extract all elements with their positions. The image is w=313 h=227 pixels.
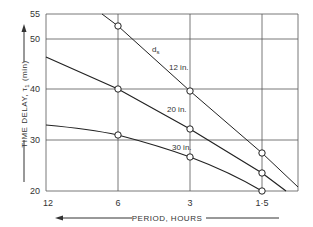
svg-text:TIME DELAY, τ1 (min): TIME DELAY, τ1 (min): [20, 60, 30, 147]
up-arrow-icon: [22, 24, 27, 32]
x-tick-1-5: 1·5: [255, 198, 268, 208]
x-tick-12: 12: [43, 198, 53, 208]
y-tick-55: 55: [30, 9, 40, 19]
series-30in: [46, 125, 262, 191]
left-arrow-icon: [55, 216, 63, 221]
label-12in: 12 in.: [169, 63, 189, 72]
label-30in: 30 in.: [172, 143, 192, 152]
y-tick-50: 50: [30, 34, 40, 44]
x-axis-ticks: 12 6 3 1·5: [43, 198, 269, 208]
series-20in: [46, 57, 286, 191]
y-tick-40: 40: [30, 84, 40, 94]
y-tick-20: 20: [30, 186, 40, 196]
y-tick-30: 30: [30, 135, 40, 145]
label-20in: 20 in.: [167, 105, 187, 114]
grid: [46, 14, 298, 191]
time-delay-chart: 55 50 40 30 20 12 6 3 1·5 PERIOD, HOURS …: [0, 0, 313, 227]
y-axis-label: TIME DELAY, τ1 (min): [20, 24, 30, 182]
x-tick-6: 6: [115, 198, 120, 208]
svg-text:PERIOD, HOURS: PERIOD, HOURS: [132, 214, 203, 223]
x-axis-label: PERIOD, HOURS: [55, 214, 279, 223]
ds-label: ds: [152, 45, 159, 55]
x-tick-3: 3: [187, 198, 192, 208]
y-axis-ticks: 55 50 40 30 20: [30, 9, 40, 196]
